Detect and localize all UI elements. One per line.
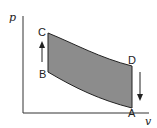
cycle-area [48,33,132,108]
point-a-label: A [128,107,136,119]
x-axis-label: v [145,115,152,128]
y-axis-label: p [9,11,16,24]
arrow-up-icon [39,41,45,62]
pv-diagram: p v C B D A [0,0,157,128]
point-d-label: D [128,54,136,66]
arrow-down-icon [137,72,143,101]
point-b-label: B [39,68,46,80]
point-c-label: C [38,26,46,38]
